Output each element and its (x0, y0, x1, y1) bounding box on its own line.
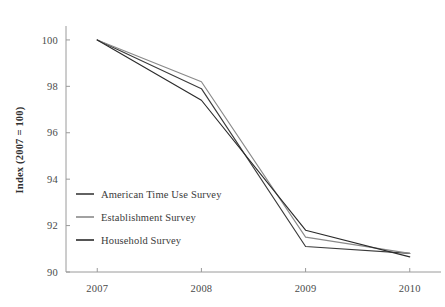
y-tick-label: 92 (47, 220, 58, 231)
legend-label-3: Household Survey (101, 235, 182, 246)
y-axis-ticks (66, 40, 70, 272)
x-tick-label: 2009 (295, 283, 317, 294)
x-axis-tick-labels: 2007200820092010 (86, 283, 420, 294)
legend-label-2: Establishment Survey (101, 212, 196, 223)
x-tick-label: 2008 (191, 283, 213, 294)
y-axis-tick-labels: 9092949698100 (42, 35, 59, 278)
series-line-3 (97, 40, 410, 257)
y-tick-label: 90 (47, 267, 58, 278)
legend-label-1: American Time Use Survey (101, 189, 222, 200)
series-lines-group (97, 40, 410, 257)
y-tick-label: 98 (47, 81, 58, 92)
y-tick-label: 100 (42, 35, 58, 46)
x-tick-label: 2010 (399, 283, 421, 294)
chart-container: Index (2007 = 100) 9092949698100 2007200… (0, 0, 445, 307)
x-tick-label: 2007 (86, 283, 108, 294)
x-axis-ticks (97, 268, 410, 272)
y-tick-label: 96 (47, 127, 58, 138)
chart-legend: American Time Use SurveyEstablishment Su… (76, 189, 222, 246)
y-tick-label: 94 (47, 174, 58, 185)
y-axis-label: Index (2007 = 100) (14, 106, 26, 193)
line-chart: Index (2007 = 100) 9092949698100 2007200… (0, 0, 445, 307)
